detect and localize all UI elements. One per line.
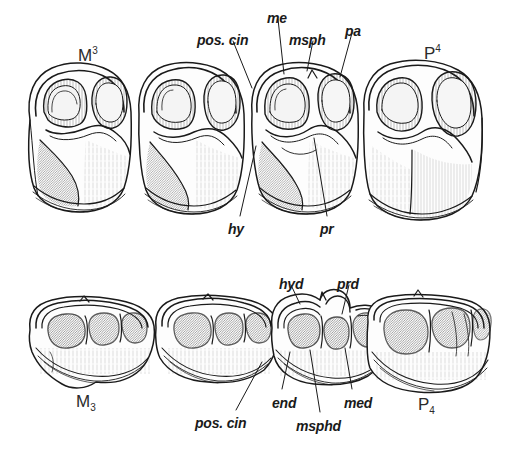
lower-tooth-2	[156, 294, 279, 383]
label-end: end	[272, 396, 296, 410]
upper-tooth-id-m3-base: M	[78, 46, 92, 65]
tooth-anatomy-figure: M3 P4 pos. cin me msph pa hy pr hyd prd …	[0, 0, 507, 453]
lower-tooth-row	[29, 285, 491, 412]
upper-tooth-1	[29, 63, 131, 212]
lower-tooth-1	[29, 296, 154, 388]
label-msphd: msphd	[296, 419, 341, 433]
label-prd: prd	[337, 277, 359, 291]
lower-tooth-id-p4-base: P	[418, 395, 429, 414]
lower-tooth-id-m3-index: 3	[90, 402, 96, 413]
upper-tooth-id-p4: P4	[424, 44, 441, 62]
lower-tooth-id-m3: M3	[76, 393, 96, 413]
lower-tooth-id-p4: P4	[418, 396, 435, 416]
label-pos-cin-upper: pos. cin	[197, 33, 248, 47]
upper-tooth-id-m3-index: 3	[92, 45, 98, 56]
upper-tooth-id-p4-index: 4	[435, 43, 441, 54]
upper-tooth-id-m3: M3	[78, 46, 98, 64]
label-msph: msph	[289, 33, 326, 47]
label-pa: pa	[345, 24, 361, 38]
lower-tooth-id-p4-index: 4	[429, 405, 435, 416]
upper-tooth-id-p4-base: P	[424, 44, 435, 63]
label-pr: pr	[320, 222, 334, 236]
lower-tooth-id-m3-base: M	[76, 392, 90, 411]
lower-tooth-4	[367, 290, 491, 392]
label-me: me	[267, 11, 287, 25]
upper-tooth-3	[252, 63, 359, 214]
figure-drawing	[0, 0, 507, 453]
label-hy: hy	[228, 222, 244, 236]
upper-tooth-2	[139, 63, 245, 214]
upper-tooth-4	[364, 60, 483, 220]
leader-pa	[340, 33, 352, 77]
label-hyd: hyd	[279, 277, 303, 291]
label-pos-cin-lower: pos. cin	[195, 416, 246, 430]
label-med: med	[344, 396, 372, 410]
